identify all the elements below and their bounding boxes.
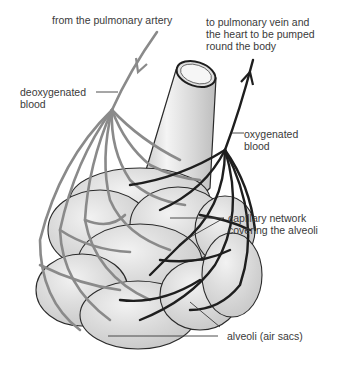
alveoli-diagram: from the pulmonary artery to pulmonary v…	[0, 0, 340, 366]
label-pulmonary-artery: from the pulmonary artery	[52, 14, 172, 26]
label-deoxygenated-blood: deoxygenated blood	[20, 86, 86, 110]
diagram-artwork	[0, 0, 340, 366]
label-pulmonary-vein: to pulmonary vein and the heart to be pu…	[206, 16, 315, 52]
label-oxygenated-blood: oxygenated blood	[244, 128, 298, 152]
label-capillary-network: capillary network covering the alveoli	[228, 212, 318, 236]
label-alveoli: alveoli (air sacs)	[227, 330, 303, 342]
